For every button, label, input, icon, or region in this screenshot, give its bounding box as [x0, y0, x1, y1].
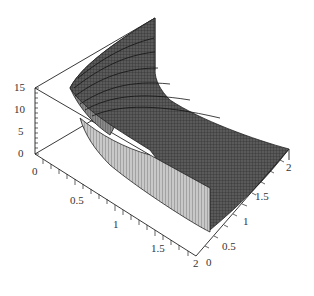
y-tick-label: 1 — [243, 215, 249, 227]
x-tick-label: 1 — [113, 218, 119, 230]
z-tick-label: 0 — [18, 147, 24, 159]
y-tick-label: 2 — [286, 161, 292, 173]
y-tick-label: 0 — [206, 256, 212, 268]
x-tick-label: 0 — [32, 165, 38, 177]
z-tick-label: 5 — [18, 125, 24, 137]
z-tick-label: 10 — [14, 103, 26, 115]
x-tick-label: 2 — [193, 257, 199, 269]
z-tick-label: 15 — [14, 81, 26, 93]
z-axis-ticks — [35, 88, 39, 154]
x-tick-label: 1.5 — [151, 242, 165, 254]
surface-plot: 15 10 5 0 0 0.5 1 1.5 2 0 0.5 1 1.5 2 — [0, 0, 314, 296]
y-tick-label: 0.5 — [222, 240, 236, 252]
x-tick-label: 0.5 — [70, 194, 84, 206]
y-tick-label: 1.5 — [255, 190, 269, 202]
